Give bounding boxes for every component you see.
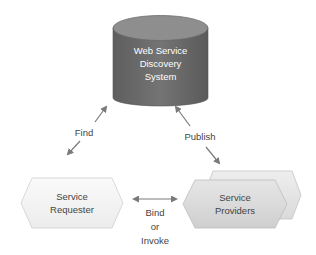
registry-label-line2: Discovery xyxy=(140,58,182,69)
find-edge: Find xyxy=(68,107,106,154)
registry-label-line1: Web Service xyxy=(134,45,188,56)
find-arrow-upper-icon xyxy=(95,107,106,122)
registry-label-line3: System xyxy=(145,71,177,82)
service-providers-node: Service Providers xyxy=(183,171,301,228)
find-label: Find xyxy=(75,127,93,138)
bind-label-line3: Invoke xyxy=(141,235,169,246)
providers-label-line1: Service xyxy=(219,192,251,203)
publish-label: Publish xyxy=(184,131,215,142)
bind-label-line2: or xyxy=(151,221,159,232)
bind-edge: Bind or Invoke xyxy=(134,199,176,246)
provider-front-shape xyxy=(183,180,287,228)
registry-cylinder: Web Service Discovery System xyxy=(113,16,208,107)
soa-diagram: Web Service Discovery System Find Publis… xyxy=(0,0,316,255)
requester-label-line1: Service xyxy=(56,191,88,202)
find-arrow-lower-icon xyxy=(68,141,80,154)
publish-edge: Publish xyxy=(176,107,219,163)
requester-label-line2: Requester xyxy=(50,204,94,215)
publish-arrow-upper-icon xyxy=(176,107,190,126)
providers-label-line2: Providers xyxy=(215,205,255,216)
bind-label-line1: Bind xyxy=(145,207,164,218)
service-requester-node: Service Requester xyxy=(21,178,123,228)
publish-arrow-lower-icon xyxy=(206,147,219,163)
